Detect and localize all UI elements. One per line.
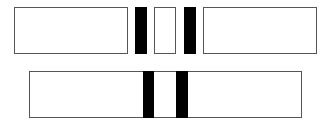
top-row-black-bar-1	[135, 7, 147, 54]
top-row-white-box-2	[154, 7, 176, 54]
bottom-row-black-bar-2	[176, 71, 188, 118]
bottom-row-black-bar-1	[143, 71, 154, 118]
top-row-white-box-4	[203, 7, 317, 54]
bottom-row-white-box-0	[29, 71, 302, 118]
top-row-white-box-0	[14, 7, 128, 54]
top-row-black-bar-3	[184, 7, 196, 54]
